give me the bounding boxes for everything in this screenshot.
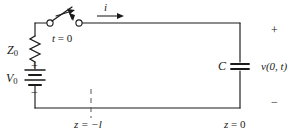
output-minus-sign: − <box>271 96 278 108</box>
position-label-right: z = 0 <box>224 119 246 130</box>
source-minus-sign: − <box>31 86 38 98</box>
output-plus-sign: + <box>271 24 278 36</box>
switch-arrowhead-2 <box>69 13 75 21</box>
impedance-subscript: 0 <box>14 48 18 58</box>
output-voltage-label: v(0, t) <box>261 61 287 72</box>
impedance-label: Z0 <box>7 44 18 58</box>
switch-arrowhead-1 <box>68 9 75 14</box>
switch-time-symbol: t <box>52 32 55 44</box>
capacitor-label: C <box>218 60 226 72</box>
current-arrowhead <box>117 13 124 19</box>
switch-terminal-right <box>76 20 82 26</box>
source-label: V0 <box>6 72 18 86</box>
impedance-symbol: Z <box>7 43 14 57</box>
switch-time-label: t = 0 <box>52 33 72 44</box>
position-right-value: = 0 <box>231 118 245 130</box>
source-subscript: 0 <box>13 76 17 86</box>
position-left-symbol: z <box>74 118 78 130</box>
switch-time-value: = 0 <box>58 32 72 44</box>
position-left-value: = −l <box>81 118 102 130</box>
circuit-schematic-svg <box>0 0 296 136</box>
position-right-symbol: z <box>224 118 228 130</box>
current-label: i <box>104 2 107 13</box>
source-plus-sign: + <box>31 60 38 72</box>
position-label-left: z = −l <box>74 119 102 130</box>
circuit-diagram-figure: Z0 V0 + − t = 0 i C v(0, t) + − z = −l z… <box>0 0 296 136</box>
